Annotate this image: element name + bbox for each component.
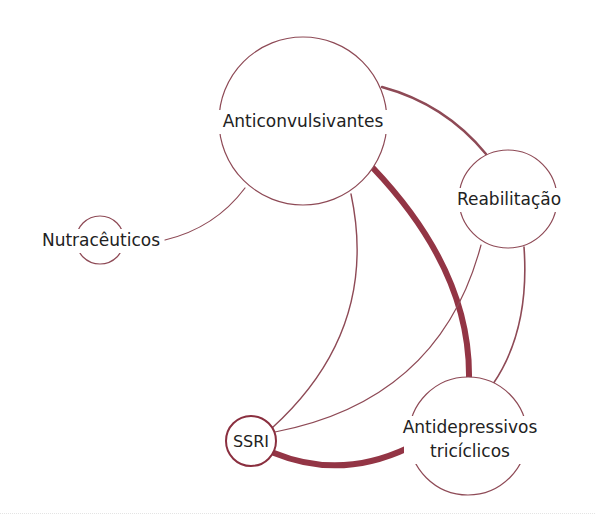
node-label: Reabilitação	[457, 189, 561, 209]
node-nutraceuticos[interactable]: Nutracêuticos	[40, 216, 164, 264]
node-antidepressivos-triciclicos[interactable]: Antidepressivos tricíclicos	[403, 377, 538, 495]
bottom-divider	[0, 513, 595, 514]
edge-anticonvulsivantes-nutraceuticos	[165, 188, 245, 240]
node-reabilitacao[interactable]: Reabilitação	[457, 150, 561, 248]
edge-ssri-antidepressivos	[274, 448, 408, 465]
node-label-line2: tricíclicos	[430, 441, 510, 461]
node-anticonvulsivantes[interactable]: Anticonvulsivantes	[218, 37, 388, 205]
edge-anticonvulsivantes-antidepressivos	[373, 168, 469, 377]
node-ssri[interactable]: SSRI	[226, 416, 276, 466]
edge-anticonvulsivantes-ssri	[272, 194, 357, 428]
edge-anticonvulsivantes-reabilitacao	[382, 87, 486, 154]
edge-reabilitacao-antidepressivos	[493, 247, 525, 384]
node-label: Nutracêuticos	[42, 230, 160, 250]
node-label-line1: Antidepressivos	[403, 417, 538, 437]
node-label: SSRI	[233, 432, 269, 451]
node-label: Anticonvulsivantes	[223, 111, 384, 131]
network-diagram: Anticonvulsivantes Reabilitação Nutracêu…	[0, 0, 595, 516]
